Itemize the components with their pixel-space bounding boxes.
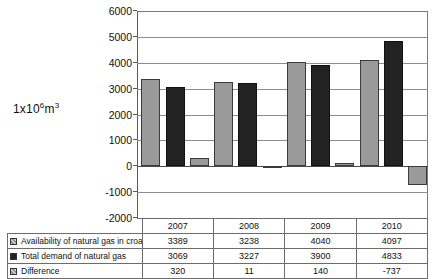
table-year-header-2009: 2009 bbox=[285, 219, 356, 234]
table-cell-r2-2008: 3227 bbox=[213, 249, 284, 264]
bar-2010-series-3 bbox=[408, 166, 427, 185]
table-cell-r3-2010: -737 bbox=[356, 264, 427, 279]
table-year-header-2008: 2008 bbox=[213, 219, 284, 234]
bar-2007-series-3 bbox=[190, 158, 209, 166]
bar-2007-series-2 bbox=[166, 87, 185, 166]
bar-group-2009 bbox=[283, 11, 356, 218]
bar-2009-series-2 bbox=[311, 65, 330, 166]
bar-2010-series-2 bbox=[384, 41, 403, 166]
y-tick-label-2000: 2000 bbox=[109, 109, 132, 121]
legend-label-3: Difference bbox=[21, 266, 60, 276]
table-cell-r1-2009: 4040 bbox=[285, 234, 356, 249]
bar-groups bbox=[137, 11, 428, 218]
y-tick-label-5000: 5000 bbox=[109, 31, 132, 43]
table-row: Availability of natural gas in croatia33… bbox=[8, 234, 428, 249]
unit-prefix: 1x10 bbox=[13, 102, 40, 116]
legend-item-1[interactable]: Availability of natural gas in croatia bbox=[8, 234, 143, 249]
y-tick-label-0: 0 bbox=[126, 160, 132, 172]
table-row: Total demand of natural gas3069322739004… bbox=[8, 249, 428, 264]
bar-2008-series-1 bbox=[214, 82, 233, 166]
table-cell-r1-2007: 3389 bbox=[142, 234, 213, 249]
table-cell-r2-2007: 3069 bbox=[142, 249, 213, 264]
table-year-header-2007: 2007 bbox=[142, 219, 213, 234]
table-cell-r3-2009: 140 bbox=[285, 264, 356, 279]
unit-symbol-exponent: 3 bbox=[55, 101, 60, 110]
table-header-row: 2007200820092010 bbox=[8, 219, 428, 234]
y-tick-label-4000: 4000 bbox=[109, 57, 132, 69]
unit-symbol: m bbox=[44, 102, 54, 116]
bar-2007-series-1 bbox=[141, 79, 160, 167]
table-cell-r3-2008: 11 bbox=[213, 264, 284, 279]
table-cell-r1-2010: 4097 bbox=[356, 234, 427, 249]
table-cell-r1-2008: 3238 bbox=[213, 234, 284, 249]
y-tick-label--1000: -1000 bbox=[105, 186, 132, 198]
chart-data-table: 2007200820092010Availability of natural … bbox=[7, 218, 428, 276]
table-row: Difference32011140-737 bbox=[8, 264, 428, 279]
y-axis-unit-label: 1x106m3 bbox=[13, 101, 59, 116]
table-cell-r2-2009: 3900 bbox=[285, 249, 356, 264]
legend-label-1: Availability of natural gas in croatia bbox=[21, 236, 142, 246]
y-tick-label-1000: 1000 bbox=[109, 134, 132, 146]
bar-group-2008 bbox=[210, 11, 283, 218]
legend-item-2[interactable]: Total demand of natural gas bbox=[8, 249, 143, 264]
table-corner-cell bbox=[8, 219, 143, 234]
bar-group-2007 bbox=[137, 11, 210, 218]
legend-label-2: Total demand of natural gas bbox=[21, 251, 126, 261]
y-tick-label-6000: 6000 bbox=[109, 5, 132, 17]
table-year-header-2010: 2010 bbox=[356, 219, 427, 234]
bar-2008-series-3 bbox=[263, 166, 282, 168]
legend-item-3[interactable]: Difference bbox=[8, 264, 143, 279]
bar-2010-series-1 bbox=[360, 60, 379, 166]
bar-2009-series-3 bbox=[335, 163, 354, 167]
chart-plot-area: 6000500040003000200010000-1000-2000 bbox=[137, 11, 428, 218]
y-tick-label-3000: 3000 bbox=[109, 83, 132, 95]
bar-group-2010 bbox=[355, 11, 428, 218]
light-hatched-swatch-icon bbox=[10, 268, 17, 275]
table-cell-r3-2007: 320 bbox=[142, 264, 213, 279]
table-cell-r2-2010: 4833 bbox=[356, 249, 427, 264]
dark-solid-swatch-icon bbox=[10, 253, 17, 260]
light-hatched-swatch-icon bbox=[10, 238, 17, 245]
bar-2009-series-1 bbox=[287, 62, 306, 167]
bar-2008-series-2 bbox=[238, 83, 257, 166]
